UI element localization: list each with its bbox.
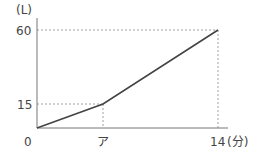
origin-label: 0 <box>24 135 32 149</box>
y-tick-60: 60 <box>16 24 31 38</box>
x-tick-a: ア <box>97 135 109 149</box>
y-tick-15: 15 <box>17 98 32 112</box>
x-tick-14: 14 <box>210 135 225 149</box>
data-line <box>37 30 218 128</box>
x-unit-label: (分) <box>227 135 248 149</box>
y-unit-label: (L) <box>16 3 32 17</box>
line-chart: (L) 60 15 0 ア 14 (分) <box>0 0 264 151</box>
